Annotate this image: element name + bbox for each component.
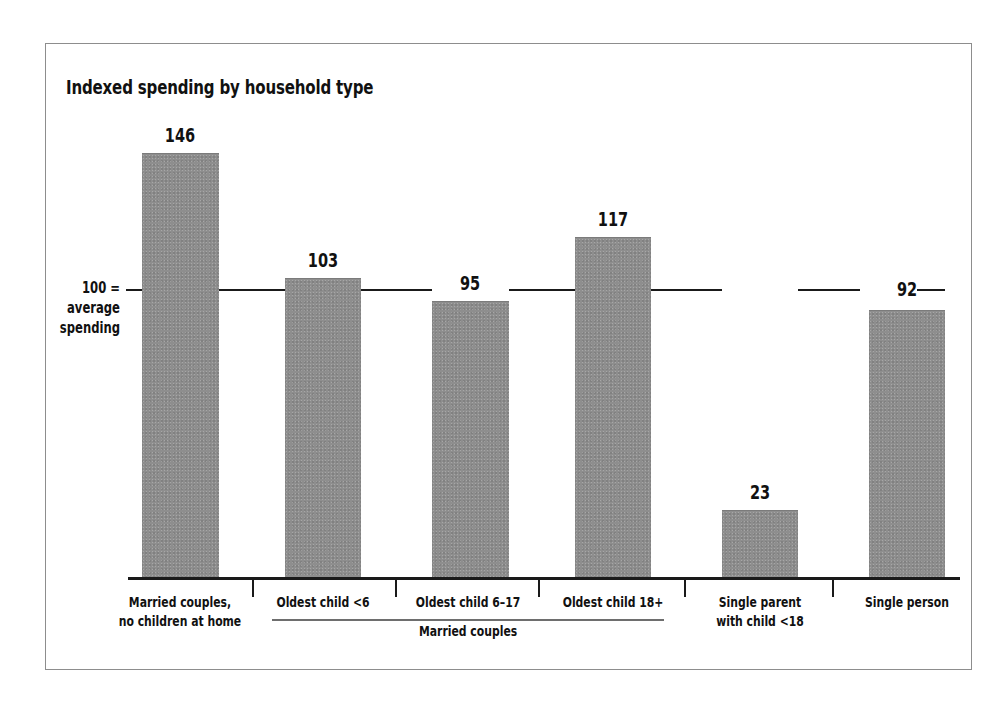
bar-married-no-children	[142, 153, 219, 578]
bar-oldest-child-18-plus	[575, 237, 651, 578]
axis-tick	[684, 580, 686, 597]
bar-value-oldest-child-18-plus: 117	[571, 208, 656, 230]
reference-line-segment	[219, 289, 285, 291]
category-label-oldest-child-under-6: Oldest child <6	[253, 593, 393, 612]
chart-figure: Indexed spending by household type 100 =…	[0, 0, 1006, 707]
reference-line-segment	[126, 289, 142, 291]
reference-line-label-line-3: spending	[51, 318, 120, 338]
category-label-line: no children at home	[111, 612, 249, 631]
bar-value-oldest-child-6-17: 95	[428, 272, 513, 294]
reference-line-label: 100 = average spending	[51, 278, 120, 338]
group-label-text: Married couples	[419, 623, 517, 639]
bar-value-single-parent: 23	[718, 481, 803, 503]
reference-line-segment	[361, 289, 432, 291]
category-label-single-parent: Single parent with child <18	[690, 593, 830, 631]
category-label-line: Oldest child 6–17	[408, 593, 528, 612]
bar-single-parent	[722, 510, 798, 578]
category-label-single-person: Single person	[837, 593, 977, 612]
reference-line-label-line-1: 100 =	[51, 278, 120, 298]
bar-oldest-child-6-17	[432, 301, 509, 578]
axis-tick	[395, 580, 397, 597]
bar-oldest-child-under-6	[285, 278, 361, 578]
reference-line-segment	[798, 289, 860, 291]
category-label-line: Single parent	[700, 593, 820, 612]
reference-line-label-line-2: average	[51, 298, 120, 318]
category-label-oldest-child-18-plus: Oldest child 18+	[543, 593, 683, 612]
bar-value-married-no-children: 146	[138, 124, 223, 146]
bar-single-person	[869, 310, 945, 578]
category-label-married-no-children: Married couples, no children at home	[100, 593, 260, 631]
category-label-line: Married couples,	[111, 593, 249, 612]
reference-line-segment	[651, 289, 722, 291]
group-label-married-couples: Married couples	[272, 623, 664, 639]
category-label-line: Single person	[847, 593, 967, 612]
category-label-line: with child <18	[700, 612, 820, 631]
reference-line-segment	[509, 289, 575, 291]
category-label-line: Oldest child <6	[263, 593, 383, 612]
category-label-oldest-child-6-17: Oldest child 6–17	[398, 593, 538, 612]
bar-value-oldest-child-under-6: 103	[281, 249, 366, 271]
axis-tick	[832, 580, 834, 597]
plot-area: 100 = average spending 146 103 95 117 23…	[0, 0, 1006, 707]
group-bracket-line	[272, 619, 664, 621]
bar-value-single-person: 92	[865, 278, 950, 300]
category-label-line: Oldest child 18+	[553, 593, 673, 612]
axis-tick	[538, 580, 540, 597]
